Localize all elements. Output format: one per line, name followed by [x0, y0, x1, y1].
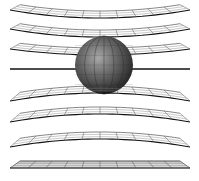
- grid-layers-front: [10, 86, 190, 168]
- diagram-figure: [0, 0, 199, 181]
- grid-layer: [10, 132, 190, 147]
- warped-grid-diagram: [0, 0, 199, 181]
- grid-layer: [10, 5, 190, 18]
- grid-layer: [10, 107, 190, 122]
- grid-layer: [10, 86, 190, 101]
- sphere: [75, 36, 133, 94]
- grid-layer: [10, 24, 190, 37]
- grid-layer: [10, 161, 190, 168]
